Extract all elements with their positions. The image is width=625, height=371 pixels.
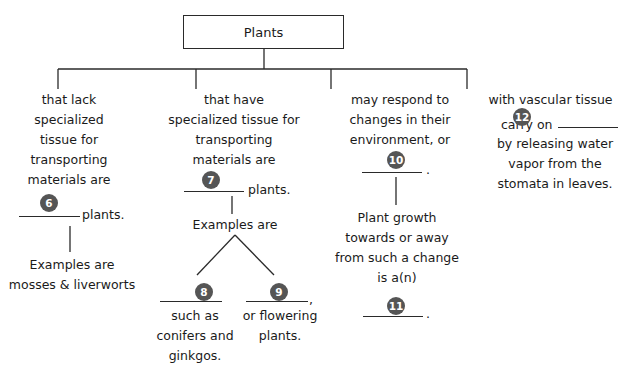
text-line: with vascular tissue [478,90,623,110]
question-badge-7: 7 [202,171,220,189]
question-badge-11: 11 [387,297,405,315]
text-line: transporting [10,150,128,170]
text-line: transporting [150,130,318,150]
text-line: that have [150,90,318,110]
text-line: materials are [150,150,318,170]
text-line: that lack [10,90,128,110]
text-line: specialized tissue for [150,110,318,130]
after-blank-text: plants. [248,180,290,200]
text-line: environment, or [340,130,460,150]
branch-transpiration-text: with vascular tissue [478,90,623,110]
after-blank-text: . [426,160,430,180]
answer-blank-10[interactable] [362,172,422,173]
text-line: such as [150,306,240,326]
text-line: stomata in leaves. [490,174,620,194]
answer-blank-11[interactable] [363,316,423,317]
text-line: is a(n) [330,268,464,288]
examples-label: Examples are [190,215,280,235]
question-badge-6: 6 [40,194,58,212]
answer-blank-8[interactable] [160,301,222,302]
text-line: specialized [10,110,128,130]
text-line: Plant growth [330,208,464,228]
text-line: plants. [235,326,325,346]
root-node-plants: Plants [183,15,344,49]
branch-nonvascular-text: that lack specialized tissue for transpo… [10,90,128,190]
answer-blank-9[interactable] [246,301,308,302]
text-line: tissue for [10,130,128,150]
text-line: vapor from the [490,154,620,174]
answer-blank-6[interactable] [19,216,80,217]
text-line: ginkgos. [150,346,240,366]
transpiration-detail-text: by releasing water vapor from the stomat… [490,134,620,194]
text-line: may respond to [340,90,460,110]
gymnosperm-text: such as conifers and ginkgos. [150,306,240,366]
question-badge-9: 9 [270,283,288,301]
after-blank-text: plants. [82,205,124,225]
root-label: Plants [244,25,284,40]
text-line: Examples are [2,255,142,275]
angiosperm-text: or flowering plants. [235,306,325,346]
text-line: or flowering [235,306,325,326]
branch-vascular-text: that have specialized tissue for transpo… [150,90,318,170]
tropism-text: Plant growth towards or away from such a… [330,208,464,288]
text-line: conifers and [150,326,240,346]
text-line: mosses & liverworts [2,275,142,295]
answer-blank-12[interactable] [558,127,618,128]
examples-nonvascular: Examples are mosses & liverworts [2,255,142,295]
question-badge-8: 8 [195,283,213,301]
after-blank-text: . [426,304,430,324]
text-line: changes in their [340,110,460,130]
branch-response-text: may respond to changes in their environm… [340,90,460,150]
question-badge-12: 12 [513,108,531,126]
text-line: towards or away [330,228,464,248]
text-line: by releasing water [490,134,620,154]
text-line: materials are [10,170,128,190]
text-line: from such a change [330,248,464,268]
question-badge-10: 10 [387,151,405,169]
answer-blank-7[interactable] [184,191,244,192]
